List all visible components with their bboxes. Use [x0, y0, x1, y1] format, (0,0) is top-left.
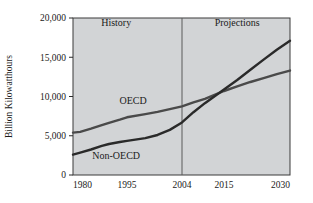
chart-figure: 05,00010,00015,00020,000 198019952004201…	[0, 0, 313, 203]
series-label-non-oecd: Non-OECD	[92, 150, 140, 161]
x-tick-label: 2004	[173, 180, 192, 190]
energy-consumption-line-chart: 05,00010,00015,00020,000 198019952004201…	[0, 0, 313, 203]
annotation-history: History	[101, 17, 131, 28]
y-axis-title-text: Billion Kilowatthours	[4, 55, 14, 138]
annotation-projections: Projections	[215, 17, 260, 28]
x-tick-label: 1995	[118, 180, 137, 190]
y-tick-label: 5,000	[45, 131, 67, 141]
y-axis-title: Billion Kilowatthours	[4, 55, 14, 138]
y-tick-label: 20,000	[40, 13, 66, 23]
y-tick-label: 10,000	[40, 92, 66, 102]
x-tick-label: 2030	[271, 180, 290, 190]
y-tick-label: 0	[61, 170, 66, 180]
y-tick-label: 15,000	[40, 53, 66, 63]
x-tick-label: 1980	[73, 180, 92, 190]
x-tick-label: 2015	[215, 180, 234, 190]
series-label-oecd: OECD	[119, 95, 146, 106]
